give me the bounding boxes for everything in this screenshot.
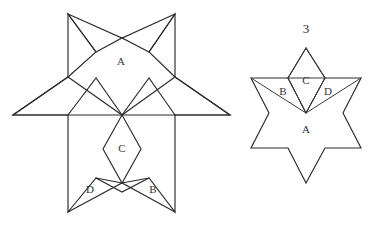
right-star-group: C B D A xyxy=(251,48,361,183)
cut-upper-v xyxy=(68,77,175,115)
right-cut-d-hypotenuse xyxy=(306,78,361,113)
cut-top-chord xyxy=(68,14,175,38)
right-label-c: C xyxy=(302,74,309,86)
left-star-group: A C D B xyxy=(13,14,230,212)
left-label-a: A xyxy=(117,55,125,67)
cut-right-point-upper xyxy=(175,77,230,115)
geometry-diagram: A C D B C B D A 3 xyxy=(0,0,372,225)
left-star-inner-cuts xyxy=(13,14,230,212)
right-label-b: B xyxy=(279,85,286,97)
figure-container: A C D B C B D A 3 xyxy=(0,0,372,225)
left-label-c: C xyxy=(118,142,125,154)
cut-lower-v xyxy=(68,183,175,212)
left-label-d: D xyxy=(86,183,94,195)
cut-left-point-upper xyxy=(13,77,68,115)
left-label-b: B xyxy=(149,183,156,195)
figure-number-label: 3 xyxy=(303,21,310,36)
right-label-a: A xyxy=(302,123,310,135)
cut-top-left-notch xyxy=(68,14,96,77)
right-label-d: D xyxy=(324,85,332,97)
right-star-outline xyxy=(251,48,361,183)
